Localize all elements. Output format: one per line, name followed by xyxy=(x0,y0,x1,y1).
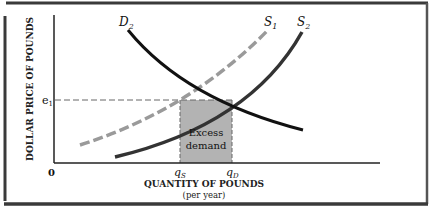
y-axis-title: DOLLAR PRICE OF POUNDS xyxy=(25,17,35,161)
origin-label: 0 xyxy=(48,167,55,178)
excess-demand-diagram: D2 S1 S2 e1 0 qS qD Excess demand DOLLAR… xyxy=(0,0,439,222)
supply-curve-s1 xyxy=(80,30,268,145)
excess-label-line1: Excess xyxy=(189,127,224,138)
e1-tick-label: e1 xyxy=(42,94,53,108)
qs-tick-label: qS xyxy=(174,166,186,180)
excess-label-line2: demand xyxy=(186,140,227,151)
x-axis-subtitle: (per year) xyxy=(183,190,226,200)
s1-label: S1 xyxy=(264,15,277,31)
qd-tick-label: qD xyxy=(226,166,239,180)
x-axis-title: QUANTITY OF POUNDS xyxy=(144,179,264,189)
s2-label: S2 xyxy=(297,15,310,31)
d2-label: D2 xyxy=(118,15,134,31)
